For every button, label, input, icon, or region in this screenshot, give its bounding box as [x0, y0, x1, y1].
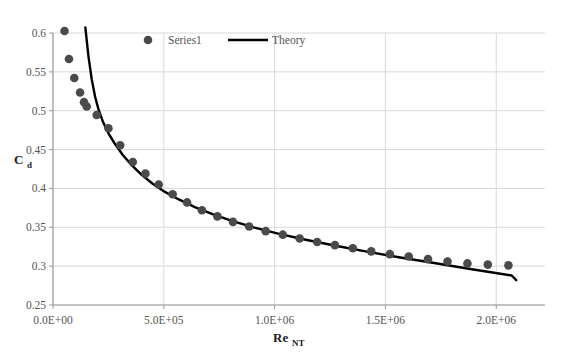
data-point-marker [198, 206, 207, 215]
data-point-marker [92, 111, 101, 120]
y-tick-label: 0.3 [32, 260, 47, 272]
data-point-marker [313, 238, 322, 247]
y-tick-label: 0.55 [26, 66, 46, 78]
data-point-marker [183, 198, 192, 207]
data-point-marker [141, 169, 150, 178]
data-point-marker [279, 230, 288, 239]
data-point-marker [104, 124, 113, 133]
data-point-marker [82, 102, 91, 111]
data-point-marker [60, 27, 69, 36]
data-point-marker [443, 257, 452, 266]
data-point-marker [261, 227, 270, 236]
data-point-marker [213, 212, 222, 221]
x-tick-label: 1.5E+06 [366, 314, 406, 326]
data-point-marker [386, 250, 395, 259]
series1-markers-group [60, 27, 513, 270]
y-tick-label: 0.4 [32, 182, 47, 194]
y-tick-label: 0.6 [32, 27, 47, 39]
chart-legend: Series1 Theory [144, 34, 306, 47]
data-point-marker [128, 158, 137, 167]
legend-series1-label: Series1 [168, 34, 202, 46]
data-point-marker [295, 234, 304, 243]
data-point-marker [331, 241, 340, 250]
data-point-marker [424, 255, 433, 264]
data-point-marker [404, 252, 413, 261]
data-point-marker [349, 244, 358, 253]
data-point-marker [484, 260, 493, 269]
data-point-marker [168, 190, 177, 199]
x-tick-label: 2.0E+06 [477, 314, 517, 326]
chart-container: 0.250.30.350.40.450.50.550.6 0.0E+005.0E… [0, 0, 561, 359]
scatter-plot-svg: 0.250.30.350.40.450.50.550.6 0.0E+005.0E… [0, 0, 561, 359]
scan-artifact-bottom-text [60, 345, 530, 359]
data-point-marker [229, 218, 238, 227]
y-tick-label: 0.5 [32, 105, 47, 117]
x-axis-title-base: Re [273, 330, 288, 345]
x-tick-label: 1.0E+06 [255, 314, 295, 326]
data-point-marker [463, 259, 472, 268]
data-point-marker [70, 74, 79, 83]
data-point-marker [504, 261, 513, 270]
data-point-marker [154, 180, 163, 189]
data-point-marker [65, 55, 74, 64]
data-point-marker [76, 88, 85, 97]
data-point-marker [116, 141, 125, 150]
y-axis-title-subscript: d [27, 160, 32, 170]
x-tick-label: 0.0E+00 [33, 314, 73, 326]
data-point-marker [245, 222, 254, 231]
legend-theory-label: Theory [272, 34, 305, 47]
data-point-marker [367, 247, 376, 256]
x-tick-label: 5.0E+05 [144, 314, 184, 326]
y-tick-label: 0.35 [26, 221, 46, 233]
y-axis-title-base: C [14, 152, 23, 167]
y-tick-label: 0.25 [26, 299, 46, 311]
y-tick-label: 0.45 [26, 144, 46, 156]
axis-lines-group [49, 33, 545, 309]
legend-series1-marker-icon [144, 36, 153, 45]
x-tick-labels-group: 0.0E+005.0E+051.0E+061.5E+062.0E+06 [33, 314, 516, 326]
